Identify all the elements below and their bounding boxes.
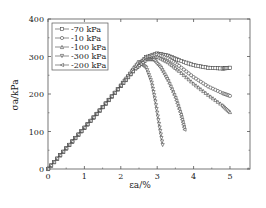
stress-strain-chart: 0123450100200300400 -70 kPa-10 kPa-100 k… bbox=[0, 0, 266, 208]
series-300-kPa bbox=[46, 61, 164, 171]
x-tick-label: 4 bbox=[191, 172, 196, 181]
y-tick-label: 0 bbox=[39, 165, 44, 174]
y-tick-label: 200 bbox=[29, 90, 44, 99]
legend-label: -300 kPa bbox=[71, 52, 106, 61]
legend-label: -10 kPa bbox=[71, 34, 101, 43]
legend: -70 kPa-10 kPa-100 kPa-300 kPa-200 kPa bbox=[52, 23, 108, 70]
series-200-kPa bbox=[46, 58, 186, 171]
legend-label: -200 kPa bbox=[71, 61, 106, 70]
x-tick-label: 0 bbox=[45, 172, 50, 181]
legend-label: -100 kPa bbox=[71, 43, 106, 52]
legend-label: -70 kPa bbox=[71, 25, 101, 34]
y-tick-label: 400 bbox=[29, 15, 44, 24]
x-tick-label: 5 bbox=[227, 172, 232, 181]
y-axis-label: σa/kPa bbox=[10, 79, 20, 111]
series-100-kPa bbox=[46, 55, 231, 171]
x-tick-label: 1 bbox=[82, 172, 87, 181]
x-tick-label: 3 bbox=[155, 172, 160, 181]
x-axis-label: εa/% bbox=[129, 180, 151, 190]
y-tick-label: 100 bbox=[29, 128, 44, 137]
series-10-kPa bbox=[46, 53, 231, 171]
x-tick-label: 2 bbox=[118, 172, 123, 181]
y-tick-label: 300 bbox=[29, 53, 44, 62]
